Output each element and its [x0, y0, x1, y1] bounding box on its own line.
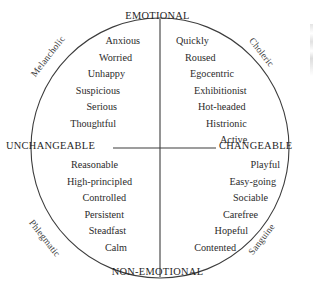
trait-word: Exhibitionist: [176, 86, 286, 96]
trait-list-melancholic: AnxiousWorriedUnhappySuspiciousSeriousTh…: [36, 36, 140, 135]
trait-word: Sociable: [168, 193, 280, 203]
trait-word: Carefree: [168, 210, 280, 220]
trait-word: Roused: [176, 53, 286, 63]
trait-word: Active: [176, 135, 286, 145]
axis-label-emotional: EMOTIONAL: [125, 11, 189, 21]
trait-word: Worried: [36, 53, 140, 63]
trait-word: Easy-going: [168, 177, 280, 187]
trait-word: Hot-headed: [176, 102, 286, 112]
trait-word: Persistent: [30, 210, 140, 220]
trait-word: High-principled: [30, 177, 140, 187]
trait-word: Thoughtful: [36, 119, 140, 129]
axis-label-unchangeable: UNCHANGEABLE: [6, 141, 95, 151]
trait-word: Unhappy: [36, 69, 140, 79]
trait-word: Playful: [168, 160, 280, 170]
trait-word: Anxious: [36, 36, 140, 46]
diagram-canvas: EMOTIONAL NON-EMOTIONAL UNCHANGEABLE CHA…: [0, 0, 315, 301]
scan-edge-artifact: [310, 24, 313, 76]
trait-word: Steadfast: [30, 226, 140, 236]
trait-word: Reasonable: [30, 160, 140, 170]
trait-word: Serious: [36, 102, 140, 112]
trait-word: Histrionic: [176, 119, 286, 129]
trait-word: Quickly: [176, 36, 286, 46]
trait-list-phlegmatic: ReasonableHigh-principledControlledPersi…: [30, 160, 140, 259]
trait-list-choleric: QuicklyRousedEgocentricExhibitionistHot-…: [176, 36, 286, 152]
trait-word: Contented: [168, 243, 280, 253]
trait-word: Egocentric: [176, 69, 286, 79]
trait-word: Calm: [30, 243, 140, 253]
trait-word: Suspicious: [36, 86, 140, 96]
trait-word: Controlled: [30, 193, 140, 203]
trait-list-sanguine: PlayfulEasy-goingSociableCarefreeHopeful…: [168, 160, 280, 259]
axis-label-non-emotional: NON-EMOTIONAL: [112, 267, 204, 277]
trait-word: Hopeful: [168, 226, 280, 236]
